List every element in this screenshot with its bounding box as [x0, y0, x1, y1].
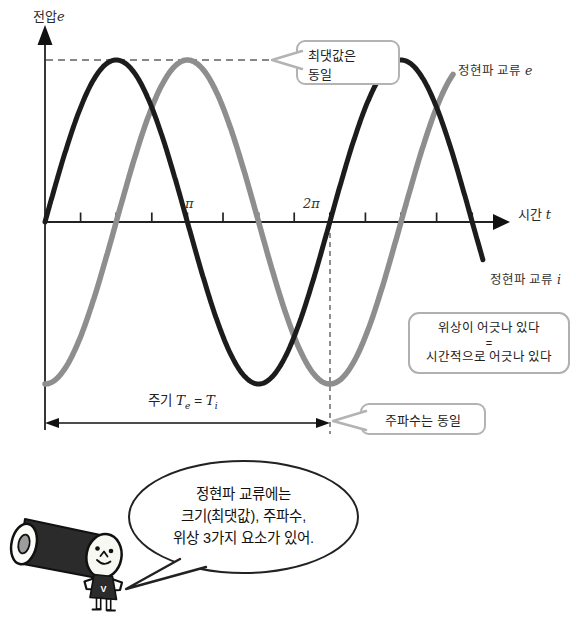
- phase-note-box: 위상이 어긋나 있다 = 시간적으로 어긋나 있다: [408, 312, 570, 374]
- x-axis-ticks: [81, 213, 473, 224]
- mascot-mouth: [97, 560, 111, 564]
- mascot-cylinder-head: [18, 519, 105, 578]
- mascot-face: [83, 531, 125, 580]
- period-subscript-e: e: [185, 401, 190, 411]
- tick-label-2pi: 2π: [303, 196, 320, 211]
- max-callout-line1: 최댓값은: [308, 46, 390, 65]
- sine-curve-e: [45, 60, 453, 384]
- speech-line1: 정현파 교류에는: [196, 484, 291, 506]
- mascot-nose: [101, 552, 108, 557]
- mascot-shirt-letter: V: [100, 584, 106, 594]
- phase-note-equals: =: [486, 337, 492, 349]
- period-label: 주기 Te = Ti: [118, 389, 248, 411]
- ac-waveform-diagram: 전압e 시간 t π 2π 정현파 교류 e 정현파 교류 i 최댓값은 동일 …: [0, 0, 576, 631]
- mascot-cylinder-endcap: [8, 521, 41, 566]
- curve-label-i-symbol: i: [557, 272, 561, 287]
- mascot-eye-right: [109, 549, 114, 554]
- mascot-leg-right: [107, 599, 111, 610]
- curve-label-i: 정현파 교류 i: [490, 269, 561, 288]
- curve-label-e-symbol: e: [525, 63, 532, 78]
- period-label-text: 주기: [148, 393, 172, 408]
- max-value-callout: 최댓값은 동일: [296, 40, 400, 85]
- speech-line2: 크기(최댓값), 주파수,: [181, 506, 307, 528]
- period-equals: =: [194, 393, 202, 408]
- period-arrowhead-left-icon: [45, 418, 59, 428]
- tick-label-pi: π: [185, 196, 194, 211]
- mascot-arm-right: [112, 579, 122, 591]
- phase-note-line1: 위상이 어긋나 있다: [438, 320, 541, 337]
- period-symbol-ti: T: [206, 392, 215, 408]
- mascot-speech-bubble: 정현파 교류에는 크기(최댓값), 주파수, 위상 3가지 요소가 있어.: [128, 460, 359, 574]
- period-symbol-te: T: [176, 392, 185, 408]
- curve-label-i-text: 정현파 교류: [490, 273, 553, 287]
- max-callout-line2: 동일: [308, 65, 390, 84]
- period-arrowhead-right-icon: [316, 418, 330, 428]
- mascot-character: V: [8, 519, 126, 611]
- mascot-leg-left: [97, 598, 101, 609]
- period-arrow: [45, 418, 330, 428]
- x-axis-label-text: 시간: [518, 207, 542, 222]
- mascot-cylinder-endcap-center: [17, 534, 32, 555]
- curve-label-e: 정현파 교류 e: [458, 60, 532, 79]
- y-axis-label-text: 전압: [33, 9, 57, 24]
- y-axis-symbol: e: [57, 9, 65, 24]
- phase-note-line3: 시간적으로 어긋나 있다: [426, 349, 553, 366]
- x-axis-symbol: t: [546, 207, 551, 222]
- mascot-eye-left: [95, 546, 100, 551]
- x-axis-arrowhead-icon: [493, 214, 510, 230]
- mascot-feet: [93, 610, 116, 611]
- y-axis-arrowhead-icon: [38, 25, 53, 45]
- mascot-shirt: [90, 575, 117, 600]
- frequency-callout: 주파수는 동일: [360, 403, 486, 435]
- frequency-callout-text: 주파수는 동일: [385, 410, 461, 429]
- y-axis-label: 전압e: [33, 6, 65, 25]
- period-subscript-i: i: [215, 401, 218, 411]
- speech-line3: 위상 3가지 요소가 있어.: [173, 528, 314, 550]
- curve-label-e-text: 정현파 교류: [458, 64, 521, 78]
- mascot-arm-left: [85, 578, 96, 590]
- x-axis-label: 시간 t: [518, 204, 551, 223]
